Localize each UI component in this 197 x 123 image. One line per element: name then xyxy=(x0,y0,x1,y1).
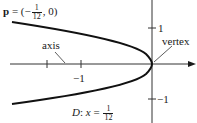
directrix-label: D: x = 112 xyxy=(72,105,114,122)
x-axis-arrowhead-icon xyxy=(188,61,196,67)
vertex-pointer-arrow xyxy=(154,46,172,62)
x-tick-label-neg1: −1 xyxy=(73,73,85,84)
axis-pointer-arrow xyxy=(55,52,65,63)
axis-label: axis xyxy=(42,40,60,51)
focus-label: p = (−112, 0) xyxy=(3,4,57,21)
y-tick-label-neg1: −1 xyxy=(157,94,169,105)
vertex-label: vertex xyxy=(162,36,189,47)
directrix-fraction: 112 xyxy=(103,105,113,122)
y-tick-label-1: 1 xyxy=(158,23,164,34)
focus-fraction: 112 xyxy=(32,4,42,21)
parabola-curve xyxy=(12,22,152,104)
